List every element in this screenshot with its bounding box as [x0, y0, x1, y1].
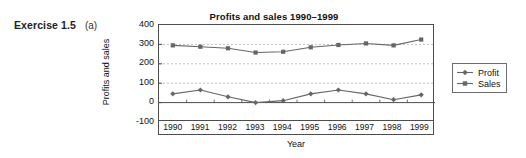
data-point-profit [308, 91, 313, 96]
diamond-marker-icon [456, 68, 474, 77]
data-point-sales [392, 43, 396, 47]
exercise-caption: Exercise 1.5 (a) [14, 19, 97, 31]
data-point-sales [171, 43, 175, 47]
data-point-profit [363, 91, 368, 96]
x-tick-label: 1998 [378, 121, 405, 134]
y-tick-label: 200 [120, 58, 154, 67]
series-line-sales [173, 40, 421, 53]
data-point-sales [336, 43, 340, 47]
data-point-sales [309, 45, 313, 49]
x-tick-label: 1994 [269, 121, 296, 134]
data-point-sales [226, 46, 230, 50]
data-point-sales [281, 50, 285, 54]
data-point-profit [419, 92, 424, 97]
y-tick-label: -100 [120, 117, 154, 126]
square-marker-icon [456, 79, 474, 88]
data-point-sales [254, 50, 258, 54]
x-axis-tick-labels: 1990199119921993199419951996199719981999 [158, 121, 434, 135]
data-point-profit [225, 94, 230, 99]
x-tick-label: 1992 [214, 121, 241, 134]
chart-legend: ProfitSales [452, 63, 507, 93]
data-point-profit [253, 100, 258, 105]
legend-item: Sales [456, 78, 501, 89]
legend-label: Profit [478, 68, 499, 78]
y-tick-label: 100 [120, 78, 154, 87]
data-point-sales [198, 45, 202, 49]
x-tick-label: 1993 [241, 121, 268, 134]
y-axis-title: Profits and sales [101, 24, 115, 120]
x-tick-label: 1996 [323, 121, 350, 134]
data-point-profit [170, 91, 175, 96]
plot-svg [159, 25, 435, 122]
plot-area [158, 24, 434, 121]
legend-item: Profit [456, 67, 501, 78]
exercise-number: Exercise 1.5 [14, 19, 76, 31]
x-tick-label: 1991 [186, 121, 213, 134]
data-point-profit [336, 87, 341, 92]
chart-title: Profits and sales 1990–1999 [104, 11, 444, 22]
y-tick-label: 0 [120, 97, 154, 106]
x-tick-label: 1990 [159, 121, 186, 134]
chart-figure: Profits and sales 1990–1999 Profits and … [104, 8, 444, 156]
x-axis-title: Year [158, 139, 434, 149]
x-tick-label: 1995 [296, 121, 323, 134]
data-point-sales [419, 37, 423, 41]
y-axis-tick-labels: 4003002001000-100 [120, 24, 154, 130]
y-tick-label: 300 [120, 39, 154, 48]
figure-page: Exercise 1.5 (a) Profits and sales 1990–… [0, 0, 526, 158]
data-point-sales [364, 41, 368, 45]
x-tick-label: 1997 [351, 121, 378, 134]
data-point-profit [391, 97, 396, 102]
y-tick-label: 400 [120, 20, 154, 29]
legend-label: Sales [478, 79, 501, 89]
data-point-profit [198, 87, 203, 92]
exercise-part-label: (a) [85, 20, 97, 31]
x-tick-label: 1999 [406, 121, 433, 134]
